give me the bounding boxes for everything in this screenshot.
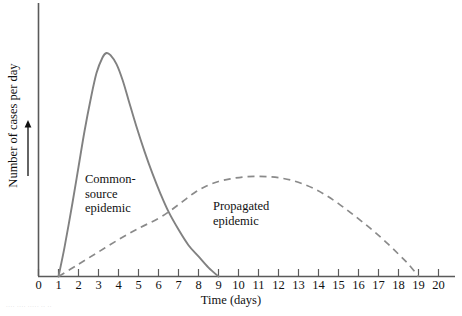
x-axis-tick-label: 19 <box>408 279 430 292</box>
x-axis-tick-label: 11 <box>248 279 270 292</box>
x-axis-tick-label: 7 <box>168 279 190 292</box>
y-axis-title: Number of cases per day <box>6 41 21 211</box>
x-axis-tick-label: 6 <box>148 279 170 292</box>
common-source-epidemic-curve <box>59 53 219 277</box>
x-axis-tick-label: 14 <box>308 279 330 292</box>
x-axis-tick-label: 4 <box>108 279 130 292</box>
chart-plot-area <box>0 0 462 316</box>
x-axis-tick-label: 8 <box>188 279 210 292</box>
x-axis-tick-label: 5 <box>128 279 150 292</box>
x-axis-ticks <box>39 269 439 277</box>
axes <box>38 3 455 277</box>
x-axis-tick-label: 20 <box>428 279 450 292</box>
x-axis-tick-label: 13 <box>288 279 310 292</box>
x-axis-tick-label: 10 <box>228 279 250 292</box>
caption-fragment: ···· ···· ····· ·· ·· <box>6 304 52 309</box>
x-axis-tick-label: 3 <box>88 279 110 292</box>
x-axis-tick-label: 1 <box>48 279 70 292</box>
annotation-common-source-epidemic: Common- source epidemic <box>85 172 136 216</box>
x-axis-tick-label: 0 <box>28 279 50 292</box>
annotation-propagated-epidemic: Propagated epidemic <box>213 199 269 228</box>
x-axis-tick-label: 16 <box>348 279 370 292</box>
epidemic-curve-figure: Number of cases per day Time (days) 0123… <box>0 0 462 316</box>
x-axis-tick-label: 18 <box>388 279 410 292</box>
y-axis-arrow-icon <box>23 118 33 176</box>
x-axis-tick-label: 2 <box>68 279 90 292</box>
x-axis-tick-label: 9 <box>208 279 230 292</box>
x-axis-tick-label: 15 <box>328 279 350 292</box>
x-axis-tick-label: 17 <box>368 279 390 292</box>
x-axis-title: Time (days) <box>0 293 462 308</box>
x-axis-tick-label: 12 <box>268 279 290 292</box>
